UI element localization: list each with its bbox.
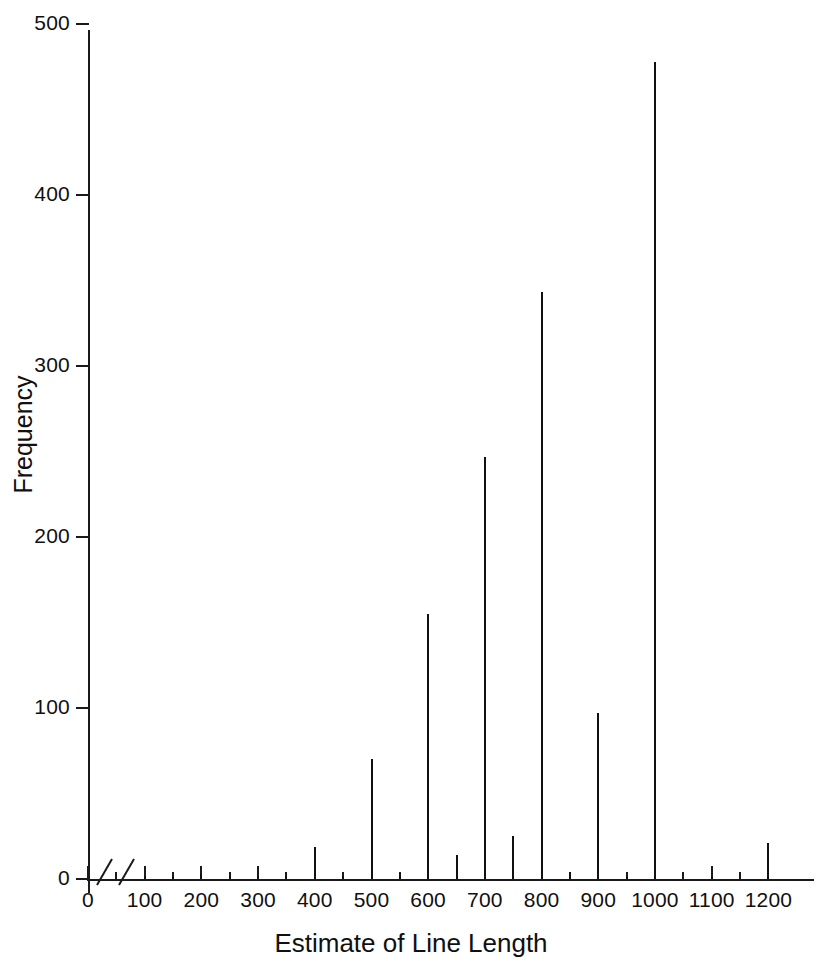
y-axis-tick	[76, 707, 89, 709]
spike-bar	[654, 62, 656, 879]
spike-bar	[597, 713, 599, 879]
y-axis-tick	[76, 536, 89, 538]
spike-bar	[569, 872, 571, 879]
spike-bar	[200, 874, 202, 879]
spike-bar	[172, 876, 174, 879]
x-axis-line	[88, 879, 814, 881]
y-axis-tick	[76, 23, 89, 25]
spike-bar	[144, 876, 146, 879]
spike-bar	[342, 876, 344, 879]
spike-bar	[456, 855, 458, 879]
y-axis-tick	[76, 365, 89, 367]
y-axis-tick	[76, 194, 89, 196]
spike-bar	[371, 759, 373, 879]
spike-bar	[427, 614, 429, 879]
spike-bar	[399, 874, 401, 879]
chart-page: 0100200300400500 Frequency 0100200300400…	[0, 0, 822, 979]
y-axis-tick-label: 400	[0, 182, 70, 206]
x-axis-tick-label: 1200	[733, 888, 803, 912]
spike-bar	[767, 843, 769, 879]
spike-bar	[484, 457, 486, 879]
y-axis-tick-label: 500	[0, 11, 70, 35]
y-axis-line	[88, 30, 90, 880]
spike-bar	[257, 876, 259, 879]
spike-bar	[314, 847, 316, 879]
spike-bar	[229, 876, 231, 879]
x-axis-minor-tick	[682, 872, 684, 881]
y-axis-title: Frequency	[9, 355, 38, 515]
spike-bar	[711, 876, 713, 879]
spike-bar	[285, 876, 287, 879]
x-axis-title: Estimate of Line Length	[0, 928, 822, 959]
axis-break-slash	[96, 859, 113, 886]
y-axis-tick-label: 0	[0, 866, 70, 890]
axis-break-origin-tick	[88, 877, 90, 893]
y-axis-tick-label: 100	[0, 695, 70, 719]
spike-bar	[512, 836, 514, 879]
spike-bar	[626, 876, 628, 879]
x-axis-minor-tick	[115, 872, 117, 881]
x-axis-minor-tick	[739, 872, 741, 881]
spike-bar	[541, 292, 543, 879]
plot-area: 0100200300400500 Frequency 0100200300400…	[0, 0, 822, 979]
y-axis-tick-label: 200	[0, 524, 70, 548]
axis-break-slash	[118, 859, 135, 886]
